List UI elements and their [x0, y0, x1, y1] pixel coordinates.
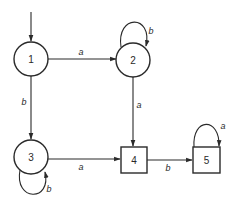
state-diagram: a b b a b a b a 1 2 3 4 5 — [0, 0, 234, 208]
node-2-label: 2 — [130, 55, 136, 66]
node-5: 5 — [193, 147, 220, 173]
edge-label-3-4: a — [78, 162, 83, 172]
node-3-label: 3 — [28, 152, 34, 163]
edge-label-3-3: b — [46, 184, 51, 194]
edge-label-5-5: a — [220, 121, 225, 131]
node-2: 2 — [116, 43, 150, 77]
edge-5-5-loop — [194, 124, 219, 147]
node-4: 4 — [121, 147, 147, 173]
edge-label-2-4: a — [136, 100, 141, 110]
edge-label-1-3: b — [21, 97, 26, 107]
edge-label-1-2: a — [78, 47, 83, 57]
node-3: 3 — [14, 140, 48, 174]
node-4-label: 4 — [131, 155, 137, 166]
edge-label-2-2: b — [148, 26, 153, 36]
edge-label-4-5: b — [165, 163, 170, 173]
node-1: 1 — [14, 42, 48, 76]
node-5-label: 5 — [204, 155, 210, 166]
node-1-label: 1 — [28, 54, 34, 65]
